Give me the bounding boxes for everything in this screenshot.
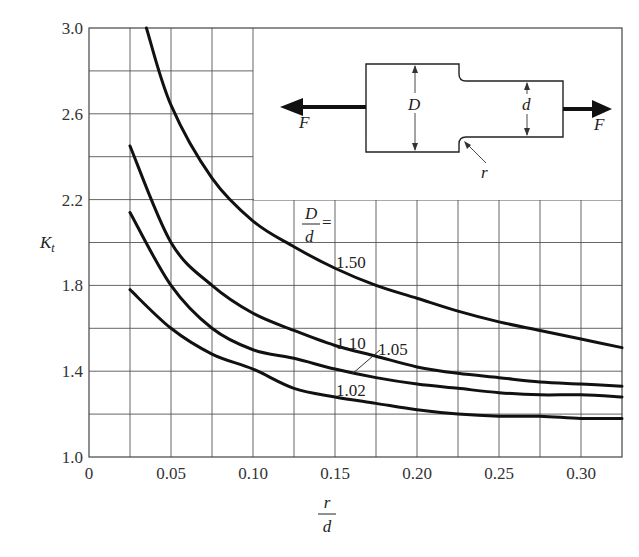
x-tick-label: 0 <box>85 464 94 483</box>
curve-label-1.50: 1.50 <box>336 253 366 272</box>
svg-text:r: r <box>324 493 331 512</box>
x-tick-labels: 00.050.100.150.200.250.30 <box>85 464 596 483</box>
svg-text:d: d <box>323 517 332 536</box>
y-tick-label: 2.6 <box>62 105 83 124</box>
y-tick-label: 1.8 <box>62 276 83 295</box>
y-axis-label: Kt <box>39 233 55 255</box>
x-tick-label: 0.15 <box>320 464 350 483</box>
x-tick-label: 0.20 <box>402 464 432 483</box>
svg-text:d: d <box>522 95 531 114</box>
svg-text:F: F <box>298 113 310 132</box>
curve-label-1.02: 1.02 <box>336 381 366 400</box>
y-tick-label: 3.0 <box>62 19 83 38</box>
svg-text:F: F <box>593 115 605 134</box>
legend-title: D d = <box>302 204 332 246</box>
x-axis-label: r d <box>318 493 336 536</box>
curve-label-1.10: 1.10 <box>336 334 366 353</box>
svg-text:=: = <box>322 213 332 232</box>
svg-text:D: D <box>304 204 318 223</box>
svg-text:D: D <box>407 95 421 114</box>
stress-concentration-chart: 1.01.41.82.22.63.0 00.050.100.150.200.25… <box>0 0 639 557</box>
x-tick-label: 0.25 <box>484 464 514 483</box>
curve-label-1.05: 1.05 <box>378 340 408 359</box>
y-tick-label: 2.2 <box>62 191 83 210</box>
y-tick-label: 1.4 <box>62 362 84 381</box>
svg-text:r: r <box>481 163 488 182</box>
x-tick-label: 0.05 <box>156 464 186 483</box>
svg-text:d: d <box>305 227 314 246</box>
y-tick-label: 1.0 <box>62 448 83 467</box>
x-tick-label: 0.30 <box>566 464 596 483</box>
x-tick-label: 0.10 <box>238 464 268 483</box>
y-tick-labels: 1.01.41.82.22.63.0 <box>62 19 84 467</box>
